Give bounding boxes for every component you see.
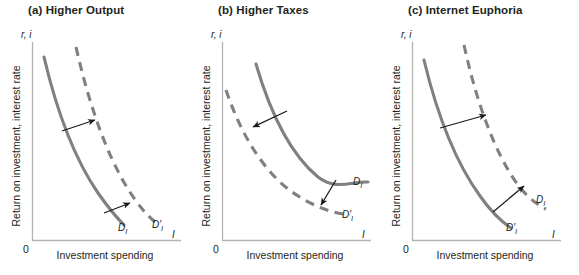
panel-a-label-di-prime: D′I xyxy=(152,219,163,233)
panel-a-origin-label: 0 xyxy=(23,243,29,255)
panel-c-origin-label: 0 xyxy=(403,243,409,255)
panel-b-label-di: DI xyxy=(353,176,362,190)
panel-b-curve-solid-di xyxy=(256,64,368,185)
panel-a-curve-dashed-di-prime xyxy=(76,47,155,222)
panel-a-label-di: DI xyxy=(118,222,127,236)
panel-c-label-di: DI xyxy=(536,194,545,208)
panel-b-y-axis-symbol: r, i xyxy=(211,29,222,40)
panel-b-curve-dashed-di-prime xyxy=(226,90,350,215)
panel-c-label-di-prime-sub: I xyxy=(515,227,517,236)
panel-a-higher-output: (a) Higher Output Return on investment, … xyxy=(0,0,193,275)
panel-b-x-axis-title: Investment spending xyxy=(220,249,370,261)
panel-c-curve-dashed-di xyxy=(464,45,546,209)
panel-c-internet-euphoria: (c) Internet Euphoria Return on investme… xyxy=(380,0,573,275)
panel-a-y-axis-title: Return on investment, interest rate xyxy=(10,51,22,241)
panel-c-shift-arrow-upper xyxy=(440,115,486,128)
panel-c-x-axis-title: Investment spending xyxy=(410,249,560,261)
panel-c-y-axis-title: Return on investment, interest rate xyxy=(390,51,402,241)
panel-b-shift-arrow-upper xyxy=(253,111,287,127)
panel-c-x-axis-symbol: I xyxy=(552,229,555,240)
panel-a-x-axis-title: Investment spending xyxy=(30,249,180,261)
panel-a-plot xyxy=(0,0,193,275)
panel-c-y-axis-symbol: r, i xyxy=(401,29,412,40)
panel-c-label-di-prime: D′I xyxy=(506,222,517,236)
panel-b-origin-label: 0 xyxy=(213,243,219,255)
panel-b-label-di-prime-sub: I xyxy=(351,214,353,223)
panel-b-higher-taxes: (b) Higher Taxes Return on investment, i… xyxy=(190,0,383,275)
panel-c-plot xyxy=(380,0,573,275)
panel-a-label-di-prime-sub: I xyxy=(161,224,163,233)
panel-b-label-di-prime: D′I xyxy=(342,209,353,223)
panel-a-label-di-sub: I xyxy=(125,227,127,236)
panel-b-x-axis-symbol: I xyxy=(362,229,365,240)
panel-b-plot xyxy=(190,0,383,275)
investment-demand-shift-figure: (a) Higher Output Return on investment, … xyxy=(0,0,579,275)
panel-a-y-axis-symbol: r, i xyxy=(21,29,32,40)
panel-c-label-di-sub: I xyxy=(543,199,545,208)
panel-b-label-di-sub: I xyxy=(360,181,362,190)
panel-a-shift-arrow-upper xyxy=(62,120,95,131)
panel-a-x-axis-symbol: I xyxy=(172,229,175,240)
panel-c-shift-arrow-lower xyxy=(493,186,524,212)
panel-b-y-axis-title: Return on investment, interest rate xyxy=(200,51,212,241)
panel-c-curve-solid-di-prime xyxy=(424,60,511,228)
